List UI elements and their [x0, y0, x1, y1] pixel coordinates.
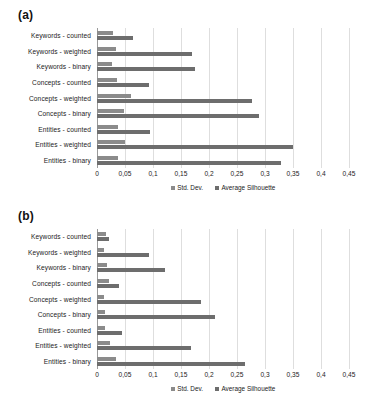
bar-average-silhouette	[97, 83, 149, 87]
gridline	[349, 229, 350, 369]
category-label: Keywords - weighted	[8, 245, 94, 261]
legend-swatch-icon	[215, 186, 219, 190]
category-label: Entities - weighted	[8, 338, 94, 354]
category-label: Entities - counted	[8, 322, 94, 338]
category-label: Keywords - binary	[8, 59, 94, 75]
bar-row	[97, 338, 349, 354]
panel-a-label: (a)	[18, 8, 33, 22]
legend-item[interactable]: Average Silhouette	[215, 385, 275, 392]
panel-b-label: (b)	[18, 209, 34, 223]
bar-std-dev	[97, 140, 125, 144]
legend-swatch-icon	[171, 186, 175, 190]
category-label: Entities - binary	[8, 153, 94, 169]
bar-std-dev	[97, 263, 107, 267]
panel-b-x-tick-labels: 00,050,10,150,20,250,30,350,40,45	[97, 371, 349, 383]
x-tick-label: 0,35	[287, 170, 300, 177]
figure-two-panel-bar-charts: (a) Keywords - countedKeywords - weighte…	[0, 0, 375, 402]
panel-a-legend: Std. Dev.Average Silhouette	[97, 184, 349, 191]
category-label: Concepts - weighted	[8, 90, 94, 106]
bar-std-dev	[97, 78, 117, 82]
bar-std-dev	[97, 125, 118, 129]
category-label: Keywords - binary	[8, 260, 94, 276]
bar-average-silhouette	[97, 253, 149, 257]
legend-swatch-icon	[215, 387, 219, 391]
bar-average-silhouette	[97, 52, 192, 56]
bar-average-silhouette	[97, 36, 133, 40]
category-label: Concepts - binary	[8, 106, 94, 122]
x-tick-label: 0,3	[260, 371, 269, 378]
bar-std-dev	[97, 232, 106, 236]
bar-row	[97, 44, 349, 60]
bar-average-silhouette	[97, 331, 122, 335]
legend-label: Std. Dev.	[177, 184, 203, 191]
x-tick-label: 0	[95, 170, 99, 177]
bar-std-dev	[97, 326, 105, 330]
x-tick-label: 0,2	[204, 170, 213, 177]
x-tick-label: 0,4	[316, 170, 325, 177]
bar-average-silhouette	[97, 300, 201, 304]
category-label: Entities - counted	[8, 121, 94, 137]
bar-average-silhouette	[97, 145, 293, 149]
category-label: Concepts - counted	[8, 75, 94, 91]
bar-row	[97, 59, 349, 75]
category-label: Concepts - counted	[8, 276, 94, 292]
bar-std-dev	[97, 109, 124, 113]
bar-average-silhouette	[97, 130, 150, 134]
bar-row	[97, 28, 349, 44]
legend-item[interactable]: Std. Dev.	[171, 184, 203, 191]
bar-average-silhouette	[97, 362, 245, 366]
bar-average-silhouette	[97, 114, 259, 118]
bar-std-dev	[97, 156, 118, 160]
x-tick-label: 0,45	[343, 371, 356, 378]
panel-a-plot-area: Keywords - countedKeywords - weightedKey…	[0, 28, 375, 168]
bar-std-dev	[97, 295, 104, 299]
legend-item[interactable]: Average Silhouette	[215, 184, 275, 191]
panel-b-legend: Std. Dev.Average Silhouette	[97, 385, 349, 392]
bar-row	[97, 229, 349, 245]
category-label: Keywords - counted	[8, 229, 94, 245]
panel-a-bar-rows	[97, 28, 349, 168]
x-tick-label: 0,45	[343, 170, 356, 177]
panel-b-plot-area: Keywords - countedKeywords - weightedKey…	[0, 229, 375, 369]
x-tick-label: 0,1	[148, 371, 157, 378]
panel-a: (a) Keywords - countedKeywords - weighte…	[0, 0, 375, 201]
legend-label: Std. Dev.	[177, 385, 203, 392]
legend-item[interactable]: Std. Dev.	[171, 385, 203, 392]
bar-average-silhouette	[97, 284, 119, 288]
bar-row	[97, 307, 349, 323]
bar-average-silhouette	[97, 67, 195, 71]
bar-std-dev	[97, 47, 116, 51]
x-tick-label: 0,05	[119, 371, 132, 378]
bar-average-silhouette	[97, 99, 252, 103]
legend-swatch-icon	[171, 387, 175, 391]
bar-std-dev	[97, 341, 110, 345]
bar-average-silhouette	[97, 346, 191, 350]
bar-row	[97, 90, 349, 106]
bar-row	[97, 121, 349, 137]
bar-row	[97, 106, 349, 122]
category-label: Concepts - weighted	[8, 291, 94, 307]
panel-b-bar-rows	[97, 229, 349, 369]
bar-row	[97, 291, 349, 307]
legend-label: Average Silhouette	[221, 184, 275, 191]
x-tick-label: 0	[95, 371, 99, 378]
bar-std-dev	[97, 94, 131, 98]
category-label: Keywords - weighted	[8, 44, 94, 60]
x-tick-label: 0,25	[231, 170, 244, 177]
bar-row	[97, 153, 349, 169]
bar-average-silhouette	[97, 237, 109, 241]
panel-b-axes	[97, 229, 349, 369]
legend-label: Average Silhouette	[221, 385, 275, 392]
bar-row	[97, 354, 349, 370]
bar-row	[97, 276, 349, 292]
bar-row	[97, 137, 349, 153]
bar-average-silhouette	[97, 268, 165, 272]
panel-b-category-labels: Keywords - countedKeywords - weightedKey…	[8, 229, 94, 369]
panel-b: (b) Keywords - countedKeywords - weighte…	[0, 201, 375, 402]
bar-std-dev	[97, 310, 105, 314]
gridline	[349, 28, 350, 168]
x-tick-label: 0,4	[316, 371, 325, 378]
category-label: Entities - weighted	[8, 137, 94, 153]
bar-std-dev	[97, 248, 104, 252]
bar-std-dev	[97, 31, 113, 35]
